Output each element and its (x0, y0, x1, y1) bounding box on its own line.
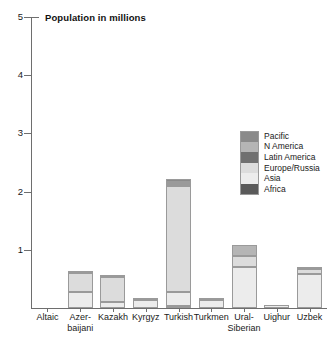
population-stacked-bar-chart: Population in millions 12345 AltaicAzer-… (0, 0, 335, 363)
y-axis-tick (24, 192, 31, 193)
legend-swatch (240, 184, 259, 195)
bar-segment-asia (68, 292, 93, 308)
bar-kazakh (100, 276, 125, 308)
legend-item: N America (240, 142, 332, 153)
bar-ural-siberian (232, 245, 257, 308)
y-axis-tick-label: 3 (7, 128, 23, 138)
bar-segment-asia (100, 302, 125, 308)
bar-uzbek (297, 267, 322, 308)
legend-label: N America (264, 142, 303, 151)
legend-item: Africa (240, 184, 332, 195)
bar-uighur (264, 305, 289, 308)
bar-segment-latin-america (166, 184, 191, 186)
y-axis-tick-label: 1 (7, 245, 23, 255)
legend-swatch (240, 152, 259, 163)
bar-segment-europe-russia (100, 277, 125, 302)
bar-segment-n-america (68, 271, 93, 273)
legend-item: Latin America (240, 152, 332, 163)
bar-segment-n-america (166, 182, 191, 184)
legend-swatch (240, 142, 259, 153)
x-axis-label: Uzbek (285, 312, 334, 323)
bar-segment-asia (166, 292, 191, 306)
y-axis-tick-label: 2 (7, 187, 23, 197)
legend-label: Pacific (264, 132, 289, 141)
bar-segment-n-america (100, 275, 125, 277)
bar-segment-n-america (297, 267, 322, 269)
bar-segment-europe-russia (297, 269, 322, 274)
bar-turkish (166, 179, 191, 308)
x-axis-labels: AltaicAzer- baijaniKazakhKyrgyzTurkishTu… (31, 312, 327, 352)
y-axis-tick-label: 4 (7, 70, 23, 80)
bar-segment-n-america (232, 245, 257, 256)
legend-item: Asia (240, 173, 332, 184)
bar-segment-europe-russia (199, 298, 224, 300)
bar-turkmen (199, 299, 224, 308)
y-axis-tick (24, 250, 31, 251)
legend-swatch (240, 163, 259, 174)
bar-segment-asia (199, 300, 224, 308)
legend-label: Asia (264, 174, 281, 183)
bar-segment-europe-russia (232, 256, 257, 268)
y-axis-tick (24, 133, 31, 134)
bar-segment-africa (166, 306, 191, 308)
legend-swatch (240, 173, 259, 184)
legend-item: Pacific (240, 131, 332, 142)
legend-item: Europe/Russia (240, 163, 332, 174)
bar-segment-pacific (166, 179, 191, 181)
bar-segment-europe-russia (133, 298, 158, 300)
bar-segment-europe-russia (166, 186, 191, 291)
bar-segment-asia (264, 305, 289, 308)
legend-swatch (240, 131, 259, 142)
bar-segment-asia (297, 274, 322, 308)
chart-legend: PacificN AmericaLatin AmericaEurope/Russ… (240, 131, 332, 195)
legend-label: Europe/Russia (264, 164, 320, 173)
bar-segment-europe-russia (68, 273, 93, 292)
y-axis-tick (24, 17, 31, 18)
bar-kyrgyz (133, 299, 158, 308)
bar-azerbaijani (68, 271, 93, 308)
y-axis-tick (24, 75, 31, 76)
bar-segment-asia (232, 267, 257, 308)
y-axis-tick-label: 5 (7, 12, 23, 22)
legend-label: Africa (264, 185, 286, 194)
legend-label: Latin America (264, 153, 316, 162)
bar-segment-asia (133, 300, 158, 308)
